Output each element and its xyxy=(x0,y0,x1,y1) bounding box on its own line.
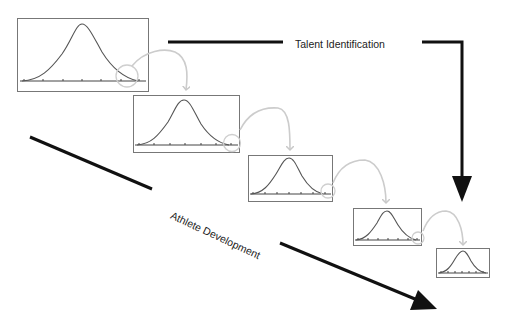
diagram-canvas xyxy=(0,0,509,327)
connector-2-3 xyxy=(240,108,290,150)
connector-3-4 xyxy=(333,160,386,203)
talent-identification-label: Talent Identification xyxy=(295,38,385,50)
connector-4-5 xyxy=(423,211,463,245)
stage-3-distribution xyxy=(249,156,336,202)
stage-4-distribution xyxy=(354,209,425,246)
stage-5-distribution xyxy=(437,249,490,278)
stage-2-distribution xyxy=(134,96,241,153)
stage-1-distribution xyxy=(18,19,149,92)
